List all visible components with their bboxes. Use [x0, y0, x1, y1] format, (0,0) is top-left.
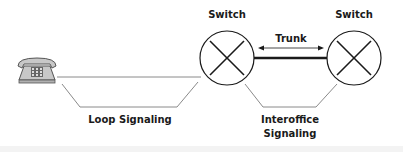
double-arrow-icon [258, 46, 324, 51]
interoffice-signaling-bracket [245, 84, 337, 107]
switch-right-icon [327, 31, 381, 85]
telephone-icon [18, 58, 56, 83]
switch-left-label: Switch [207, 9, 247, 20]
loop-signaling-bracket [62, 82, 198, 107]
switch-left-icon [200, 31, 254, 85]
switch-right-label: Switch [334, 9, 374, 20]
footer-band [0, 146, 403, 152]
trunk-label: Trunk [270, 33, 312, 44]
signaling-diagram: Switch Switch Trunk Loop Signaling Inter… [0, 0, 403, 152]
loop-signaling-label: Loop Signaling [80, 114, 180, 125]
diagram-canvas [0, 0, 403, 152]
interoffice-label-line2: Signaling [255, 128, 325, 139]
interoffice-label-line1: Interoffice [255, 114, 325, 125]
